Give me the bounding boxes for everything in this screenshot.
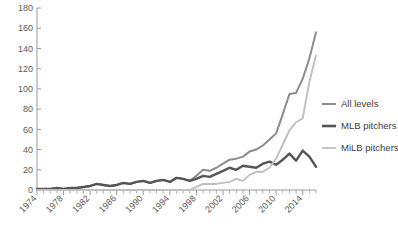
x-axis-tick-label: 1982 [70, 193, 91, 214]
x-axis-tick-label: 1978 [44, 193, 65, 214]
x-axis-tick-label: 1998 [177, 193, 198, 214]
y-axis-tick-label: 180 [18, 3, 33, 13]
series-line-mlb-pitchers [37, 151, 316, 189]
x-axis-tick-label: 2002 [203, 193, 224, 214]
series-line-all-levels [37, 32, 316, 189]
y-axis-tick-label: 20 [23, 165, 33, 175]
x-axis-tick-label: 2014 [283, 193, 304, 214]
x-axis-tick-label: 1990 [123, 193, 144, 214]
line-chart: 020406080100120140160180 197419781982198… [0, 0, 398, 235]
legend-label: All levels [341, 98, 379, 109]
y-axis-tick-label: 140 [18, 44, 33, 54]
x-axis-tick-label: 2010 [256, 193, 277, 214]
y-axis-tick-label: 120 [18, 64, 33, 74]
x-axis-tick-label: 1994 [150, 193, 171, 214]
x-axis-tick-label: 1974 [17, 193, 38, 214]
y-axis-tick-label: 160 [18, 23, 33, 33]
y-axis-tick-label: 100 [18, 84, 33, 94]
series-line-milb-pitchers [37, 56, 316, 190]
y-axis-tick-label: 40 [23, 145, 33, 155]
chart-container: 020406080100120140160180 197419781982198… [0, 0, 398, 235]
x-axis-tick-label: 1986 [97, 193, 118, 214]
x-axis-tick-label: 2006 [230, 193, 251, 214]
legend-label: MLB pitchers [341, 120, 397, 131]
y-axis-tick-labels: 020406080100120140160180 [18, 3, 33, 195]
y-axis-tick-label: 80 [23, 104, 33, 114]
legend-label: MiLB pitchers [341, 142, 398, 153]
y-axis-tick-label: 60 [23, 125, 33, 135]
chart-legend: All levelsMLB pitchersMiLB pitchers [322, 98, 398, 153]
x-axis-tick-labels: 1974197819821986199019941998200220062010… [17, 193, 304, 214]
data-series-group [37, 32, 316, 190]
y-axis-tick-marks [37, 8, 41, 190]
